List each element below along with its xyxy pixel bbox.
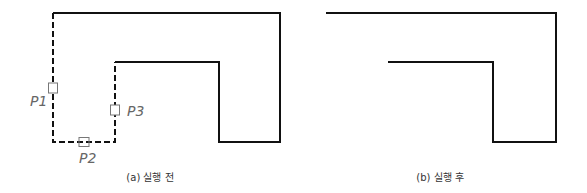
figure-a-caption: (a) 실행 전 — [126, 169, 173, 184]
figure-a-solid-outline — [53, 13, 280, 142]
figure-a-shape — [49, 13, 281, 147]
figure-a-dashed-outline — [53, 13, 115, 142]
p1-label: P1 — [30, 93, 47, 109]
p2-label: P2 — [79, 150, 96, 166]
figure-b-shape — [326, 13, 556, 142]
p3-marker — [111, 105, 120, 115]
p1-marker — [49, 83, 58, 93]
p3-label: P3 — [127, 103, 144, 119]
figure-b-outline — [326, 13, 556, 142]
figure-b-caption: (b) 실행 후 — [416, 169, 464, 184]
